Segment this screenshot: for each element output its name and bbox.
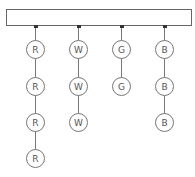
junction-dot (77, 25, 81, 28)
node-w: W (69, 77, 88, 96)
node-g: G (112, 40, 131, 59)
node-w: W (69, 40, 88, 59)
node-g: G (112, 77, 131, 96)
junction-dot (163, 25, 167, 28)
node-b: B (155, 77, 174, 96)
junction-dot (120, 25, 124, 28)
node-r: R (26, 149, 45, 168)
junction-dot (34, 25, 38, 28)
node-b: B (155, 113, 174, 132)
node-b: B (155, 40, 174, 59)
header-bar (6, 9, 192, 26)
node-r: R (26, 40, 45, 59)
node-w: W (69, 113, 88, 132)
node-r: R (26, 113, 45, 132)
node-r: R (26, 77, 45, 96)
